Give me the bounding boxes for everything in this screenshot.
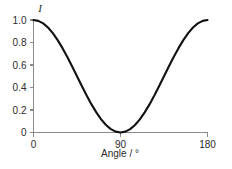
y-tick-label: 1.0 bbox=[13, 15, 27, 26]
y-tick-label: 0.8 bbox=[13, 37, 27, 48]
intensity-angle-plot: 1.00.80.60.40.20 I 090180 Angle / ° bbox=[0, 0, 232, 169]
y-tick-label: 0.2 bbox=[13, 105, 27, 116]
x-axis-title: Angle / ° bbox=[101, 148, 139, 159]
y-tick-label: 0 bbox=[21, 127, 27, 138]
x-tick-label: 180 bbox=[199, 139, 216, 150]
x-tick-label: 0 bbox=[31, 139, 37, 150]
chart-figure: 1.00.80.60.40.20 I 090180 Angle / ° bbox=[0, 0, 232, 169]
y-tick-label: 0.6 bbox=[13, 60, 27, 71]
y-tick-label: 0.4 bbox=[13, 82, 27, 93]
